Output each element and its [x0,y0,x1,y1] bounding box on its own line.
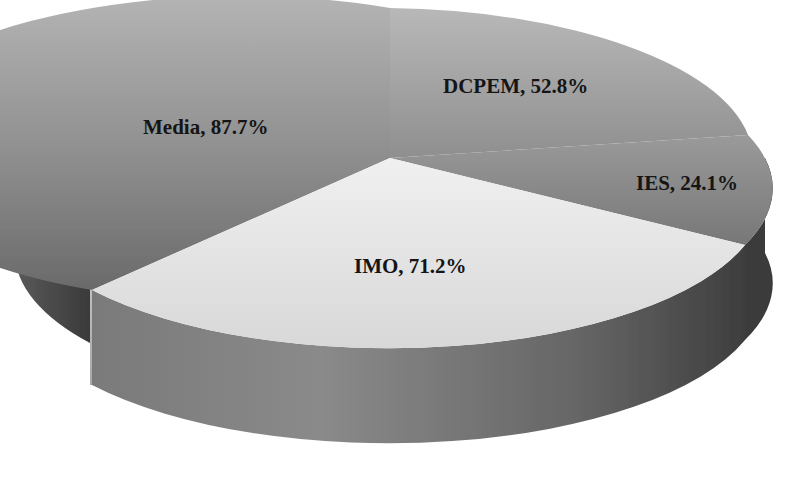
label-media: Media, 87.7% [143,115,268,139]
pie-chart-3d: DCPEM, 52.8% IES, 24.1% IMO, 71.2% Media… [0,0,785,477]
label-dcpem: DCPEM, 52.8% [443,74,588,98]
label-imo: IMO, 71.2% [354,254,467,278]
label-ies: IES, 24.1% [636,171,738,195]
